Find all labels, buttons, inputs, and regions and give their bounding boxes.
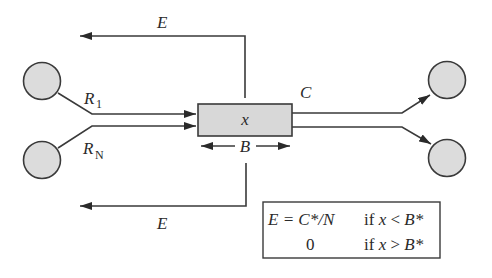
formula-row-2-lhs: 0 xyxy=(306,235,315,254)
buffer-flow-diagram: E E R 1 R N x B xyxy=(0,0,492,278)
output-edge-2 xyxy=(292,127,431,144)
formula-row-1-condition: if x < B* xyxy=(364,210,424,229)
source-node-1 xyxy=(24,63,61,100)
buffer-label: x xyxy=(240,110,249,129)
input-1-label: R 1 xyxy=(83,89,102,111)
svg-text:N: N xyxy=(95,148,104,162)
output-edge-1 xyxy=(292,95,430,113)
sink-node-1 xyxy=(429,62,466,99)
input-edge-1 xyxy=(58,93,196,114)
formula-box: E = C*/N if x < B* 0 if x > B* xyxy=(263,202,440,258)
svg-text:1: 1 xyxy=(96,97,102,111)
capacity-label: C xyxy=(300,83,312,102)
sink-node-2 xyxy=(429,140,466,177)
feedback-top-label: E xyxy=(156,13,168,32)
feedback-bottom-label: E xyxy=(156,214,168,233)
input-edge-n xyxy=(58,126,196,148)
svg-text:R: R xyxy=(82,139,94,158)
formula-row-2-condition: if x > B* xyxy=(364,235,424,254)
formula-row-1-lhs: E = C*/N xyxy=(267,210,336,229)
buffer-size-indicator: B xyxy=(201,137,290,156)
buffer-size-label: B xyxy=(240,137,251,156)
source-node-n xyxy=(24,142,61,179)
feedback-arrow-top: E xyxy=(80,13,245,98)
feedback-arrow-bottom: E xyxy=(80,163,246,233)
svg-text:R: R xyxy=(83,89,95,108)
input-n-label: R N xyxy=(82,139,104,162)
